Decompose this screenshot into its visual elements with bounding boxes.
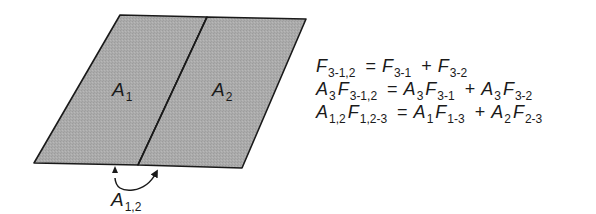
label-a12: A1,2 bbox=[111, 190, 141, 209]
view-factor-figure: A1 A2 A1,2 F3-1,2 = F3-1 + F3-2 A3F3-1,2… bbox=[0, 0, 596, 214]
equation-1: F3-1,2 = F3-1 + F3-2 bbox=[316, 56, 544, 79]
equation-3: A1,2F1,2-3 = A1F1-3 + A2F2-3 bbox=[316, 102, 544, 125]
combined-surface-arrow bbox=[115, 173, 156, 190]
label-a1: A1 bbox=[112, 80, 132, 99]
equation-2: A3F3-1,2 = A3F3-1 + A3F3-2 bbox=[316, 79, 544, 102]
equations-block: F3-1,2 = F3-1 + F3-2 A3F3-1,2 = A3F3-1 +… bbox=[316, 56, 544, 125]
combined-surface-arrow-start bbox=[112, 166, 118, 173]
label-a2: A2 bbox=[212, 80, 232, 99]
